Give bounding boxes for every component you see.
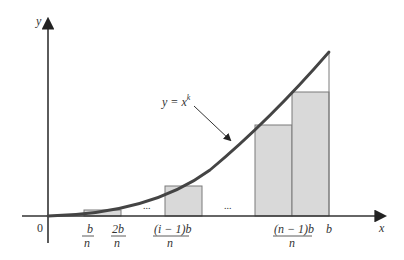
tick-label-i-minus-1-b-over-n: (i − 1)b n <box>153 222 191 250</box>
rectangle-i <box>165 186 202 216</box>
ellipsis-left: ... <box>143 200 151 211</box>
rectangle-n-minus-1 <box>255 125 292 216</box>
curve-label: y = xk <box>161 93 191 109</box>
y-axis-label: y <box>35 14 42 28</box>
riemann-rectangles <box>84 92 329 216</box>
ellipsis-right: ... <box>224 200 232 211</box>
svg-text:n: n <box>84 236 90 250</box>
tick-label-n-minus-1-b-over-n: (n − 1)b n <box>273 222 314 250</box>
svg-text:(i − 1)b: (i − 1)b <box>154 222 191 236</box>
svg-text:n: n <box>167 236 173 250</box>
origin-label: 0 <box>37 221 43 235</box>
x-axis-label: x <box>378 221 385 235</box>
svg-text:2b: 2b <box>112 222 124 236</box>
tick-label-b-over-n: b n <box>82 222 94 250</box>
rectangle-n <box>292 92 329 216</box>
riemann-sum-diagram: y = xk y x 0 ... ... b n 2b n (i − 1)b n… <box>0 0 404 260</box>
svg-text:n: n <box>289 236 295 250</box>
tick-label-b: b <box>326 222 332 236</box>
curve-label-pointer <box>194 106 230 140</box>
tick-label-2b-over-n: 2b n <box>111 222 126 250</box>
svg-text:b: b <box>87 222 93 236</box>
svg-text:n: n <box>114 236 120 250</box>
svg-text:(n − 1)b: (n − 1)b <box>274 222 314 236</box>
